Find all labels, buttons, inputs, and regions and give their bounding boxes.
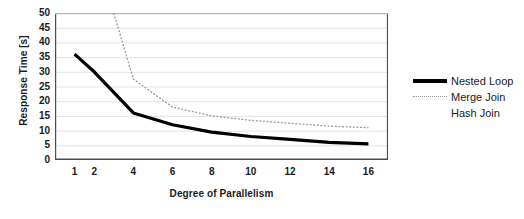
- series-layer: [75, 13, 369, 144]
- plot-area: [55, 13, 388, 160]
- x-tick-label-8: 8: [197, 166, 227, 178]
- chart-figure: Response Time [s] 05101520253035404550 1…: [0, 0, 524, 219]
- y-tick-label-45: 45: [28, 23, 50, 33]
- y-axis-tick-labels: 05101520253035404550: [26, 0, 50, 219]
- series-line-nested-loop: [75, 54, 369, 144]
- legend-swatch-icon: [413, 75, 447, 87]
- y-tick-label-40: 40: [28, 37, 50, 47]
- series-line-merge-join: [114, 13, 369, 128]
- y-tick-label-30: 30: [28, 67, 50, 77]
- x-tick-label-14: 14: [314, 166, 344, 178]
- y-tick-label-0: 0: [28, 155, 50, 165]
- y-tick-label-15: 15: [28, 111, 50, 121]
- legend-label: Merge Join: [451, 91, 505, 104]
- x-tick-label-2: 2: [79, 166, 109, 178]
- x-axis-tick-labels: 1246810121416: [55, 166, 388, 180]
- legend-label: Hash Join: [451, 107, 500, 120]
- plot-svg: [55, 13, 388, 160]
- y-tick-label-35: 35: [28, 52, 50, 62]
- x-tick-label-6: 6: [158, 166, 188, 178]
- y-tick-label-10: 10: [28, 126, 50, 136]
- legend-label: Nested Loop: [451, 75, 513, 88]
- legend-swatch-icon: [413, 91, 447, 103]
- y-tick-label-25: 25: [28, 82, 50, 92]
- x-tick-label-10: 10: [236, 166, 266, 178]
- y-tick-label-20: 20: [28, 96, 50, 106]
- x-tick-label-12: 12: [275, 166, 305, 178]
- chart-legend: Nested LoopMerge JoinHash Join: [413, 73, 521, 121]
- x-axis-title: Degree of Parallelism: [55, 188, 388, 199]
- y-tick-label-5: 5: [28, 140, 50, 150]
- legend-item-nested-loop[interactable]: Nested Loop: [413, 73, 521, 89]
- legend-item-hash-join[interactable]: Hash Join: [413, 105, 521, 121]
- y-tick-label-50: 50: [28, 8, 50, 18]
- legend-swatch-icon: [413, 107, 447, 119]
- gridlines: [55, 14, 388, 146]
- legend-item-merge-join[interactable]: Merge Join: [413, 89, 521, 105]
- x-tick-label-4: 4: [118, 166, 148, 178]
- x-tick-label-16: 16: [353, 166, 383, 178]
